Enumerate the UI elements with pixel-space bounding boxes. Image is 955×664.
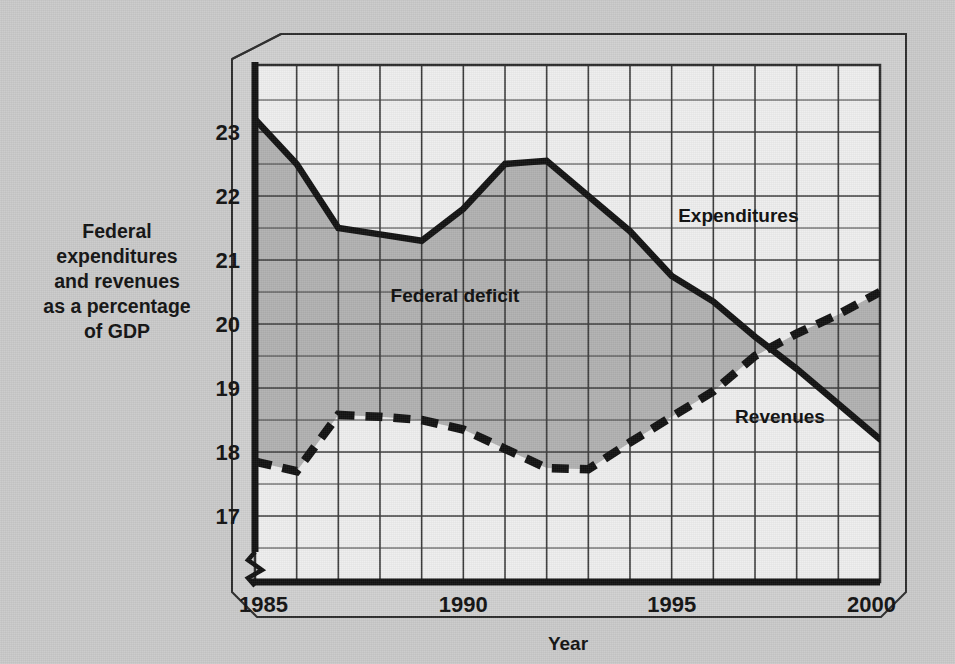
y-axis-title: Federalexpendituresand revenuesas a perc… — [43, 220, 191, 342]
y-tick-label: 20 — [216, 312, 240, 337]
y-tick-label: 21 — [216, 248, 240, 273]
y-axis-title-line: Federal — [82, 220, 151, 242]
y-tick-label: 23 — [216, 120, 240, 145]
x-tick-label: 1995 — [647, 592, 696, 617]
expenditures-label: Expenditures — [678, 205, 798, 226]
y-tick-label: 22 — [216, 184, 240, 209]
x-tick-label: 2000 — [847, 592, 896, 617]
y-tick-label: 18 — [216, 440, 240, 465]
chart-canvas: 17181920212223 1985199019952000 Federal … — [0, 0, 955, 664]
y-axis-title-line: as a percentage — [43, 295, 191, 317]
x-axis-title: Year — [548, 633, 589, 654]
federal-deficit-label: Federal deficit — [391, 285, 520, 306]
x-tick-label: 1990 — [439, 592, 488, 617]
y-axis-title-line: expenditures — [56, 245, 178, 267]
y-tick-label: 17 — [216, 504, 240, 529]
chart-figure: 17181920212223 1985199019952000 Federal … — [0, 0, 955, 664]
revenues-label: Revenues — [735, 406, 825, 427]
x-tick-label: 1985 — [239, 592, 288, 617]
y-tick-label: 19 — [216, 376, 240, 401]
y-axis-title-line: of GDP — [84, 320, 150, 342]
y-axis-title-line: and revenues — [54, 270, 180, 292]
